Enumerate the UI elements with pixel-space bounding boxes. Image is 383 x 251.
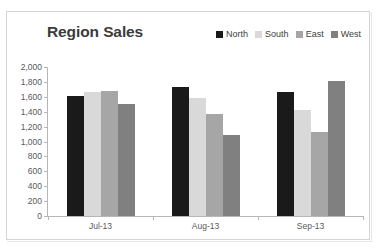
legend-item-south[interactable]: South bbox=[255, 30, 289, 39]
legend-swatch-icon bbox=[255, 31, 262, 38]
y-tick-label: 800 bbox=[28, 152, 42, 161]
legend-label: North bbox=[226, 30, 248, 39]
bar-west[interactable] bbox=[328, 81, 345, 216]
category-tick bbox=[363, 216, 364, 220]
y-axis: 2,0001,8001,6001,4001,2001,0008006004002… bbox=[7, 67, 47, 216]
chart-title: Region Sales bbox=[47, 23, 143, 41]
bar-south[interactable] bbox=[84, 92, 101, 216]
bar-south[interactable] bbox=[189, 98, 206, 216]
chart-legend[interactable]: NorthSouthEastWest bbox=[216, 30, 361, 39]
x-tick-label: Jul-13 bbox=[48, 222, 153, 231]
category-tick bbox=[48, 216, 49, 220]
bar-west[interactable] bbox=[223, 135, 240, 216]
x-tick-label: Aug-13 bbox=[153, 222, 258, 231]
y-tick-label: 600 bbox=[28, 167, 42, 176]
bar-west[interactable] bbox=[118, 104, 135, 216]
y-tick-label: 1,000 bbox=[21, 137, 42, 146]
legend-swatch-icon bbox=[216, 31, 223, 38]
bar-east[interactable] bbox=[101, 91, 118, 216]
plot-region: 2,0001,8001,6001,4001,2001,0008006004002… bbox=[7, 56, 371, 241]
bar-group bbox=[153, 67, 258, 216]
chart-header: Region Sales NorthSouthEastWest bbox=[7, 12, 369, 56]
y-tick-label: 1,400 bbox=[21, 107, 42, 116]
y-tick-label: 0 bbox=[37, 212, 42, 221]
bar-groups bbox=[48, 67, 363, 216]
legend-item-east[interactable]: East bbox=[296, 30, 324, 39]
y-tick-label: 1,600 bbox=[21, 93, 42, 102]
bar-south[interactable] bbox=[294, 110, 311, 216]
bar-north[interactable] bbox=[67, 96, 84, 216]
x-axis: Jul-13Aug-13Sep-13 bbox=[48, 222, 363, 231]
bar-north[interactable] bbox=[172, 87, 189, 216]
category-tick bbox=[258, 216, 259, 220]
bar-group bbox=[48, 67, 153, 216]
legend-item-west[interactable]: West bbox=[331, 30, 361, 39]
y-tick-label: 2,000 bbox=[21, 63, 42, 72]
legend-swatch-icon bbox=[296, 31, 303, 38]
y-tick-label: 1,200 bbox=[21, 122, 42, 131]
x-axis-line bbox=[47, 216, 363, 217]
legend-label: West bbox=[341, 30, 361, 39]
y-tick-label: 1,800 bbox=[21, 78, 42, 87]
y-tick-label: 400 bbox=[28, 182, 42, 191]
legend-item-north[interactable]: North bbox=[216, 30, 248, 39]
chart-container[interactable]: Region Sales NorthSouthEastWest 2,0001,8… bbox=[6, 11, 370, 240]
bar-group bbox=[258, 67, 363, 216]
legend-label: East bbox=[306, 30, 324, 39]
bar-east[interactable] bbox=[311, 132, 328, 216]
y-tick-label: 200 bbox=[28, 197, 42, 206]
bar-north[interactable] bbox=[277, 92, 294, 216]
category-tick bbox=[153, 216, 154, 220]
plot-area bbox=[48, 67, 363, 216]
bar-east[interactable] bbox=[206, 114, 223, 216]
legend-swatch-icon bbox=[331, 31, 338, 38]
x-tick-label: Sep-13 bbox=[258, 222, 363, 231]
legend-label: South bbox=[265, 30, 289, 39]
